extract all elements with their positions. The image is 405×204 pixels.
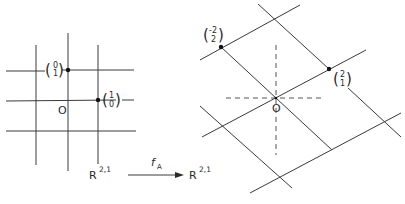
left-space-label: R [89,169,97,182]
paren-close: ) [218,26,224,44]
left-space-superscript: 2,1 [99,165,111,174]
image-point-neg2-2 [219,45,223,49]
right-grid [200,4,401,193]
right-line-b3b [348,88,401,137]
map-label-subscript: A [157,163,162,171]
right-line-b1 [200,106,292,188]
paren-open: ( [333,70,339,88]
paren-close: ) [346,70,352,88]
basis-vector-label-e2: ( 0 1 ) [45,61,64,79]
vector-bottom: 1 [340,79,345,88]
vector-top: -2 [209,26,217,35]
right-origin-point [275,97,278,100]
vector-bottom: 0 [109,100,114,109]
paren-open: ( [45,61,51,79]
lattice-map-diagram: ( 0 1 ) ( 1 0 ) O R 2,1 f A R 2,1 [0,0,405,204]
paren-close: ) [58,61,64,79]
image-point-2-1 [327,67,331,71]
paren-open: ( [203,26,209,44]
paren-open: ( [102,91,108,109]
right-line-a2 [202,50,366,137]
arrow-head-icon [175,172,184,178]
vector-bottom: 2 [211,35,216,44]
map-arrow [128,172,184,178]
basis-vector-label-e1: ( 1 0 ) [102,91,121,109]
right-line-a3 [250,113,401,193]
left-origin-label: O [58,104,67,117]
paren-close: ) [115,91,121,109]
right-space-superscript: 2,1 [199,165,211,174]
image-vector-label-2: ( 2 1 ) [333,70,352,88]
basis-point-e2 [66,68,70,72]
right-origin-label: O [272,102,281,115]
vector-top: 1 [109,91,114,100]
vector-top: 2 [340,70,345,79]
right-space-label: R [189,169,197,182]
image-vector-label-1: ( -2 2 ) [203,26,224,44]
basis-point-e1 [96,98,100,102]
right-line-b3 [258,4,329,69]
